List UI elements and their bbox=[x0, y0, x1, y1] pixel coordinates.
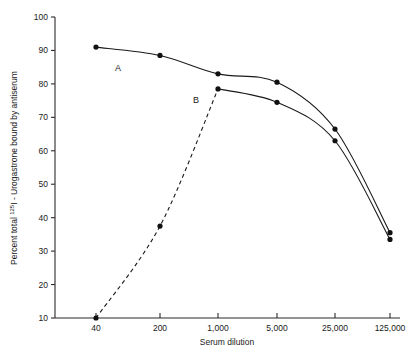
data-point-marker bbox=[215, 71, 220, 76]
x-tick-label: 125,000 bbox=[375, 323, 406, 333]
x-axis-ticks: 402001,0005,00025,000125,000 bbox=[91, 313, 405, 333]
y-tick-label: 60 bbox=[39, 146, 49, 156]
y-tick-label: 30 bbox=[39, 246, 49, 256]
series-a-line bbox=[96, 47, 390, 233]
x-axis-title: Serum dilution bbox=[200, 337, 255, 347]
y-tick-label: 20 bbox=[39, 280, 49, 290]
data-point-marker bbox=[332, 126, 337, 131]
y-axis-title: Percent total 125I - Urogastrone bound b… bbox=[9, 71, 19, 265]
x-tick-label: 25,000 bbox=[322, 323, 348, 333]
curve-label-a: A bbox=[115, 63, 121, 73]
series-b-solid-line bbox=[218, 89, 390, 240]
chart-figure: 102030405060708090100 402001,0005,00025,… bbox=[0, 0, 414, 358]
data-point-marker bbox=[332, 138, 337, 143]
data-point-marker bbox=[93, 315, 98, 320]
x-tick-label: 40 bbox=[91, 323, 101, 333]
data-point-marker bbox=[387, 230, 392, 235]
data-point-marker bbox=[215, 86, 220, 91]
y-tick-label: 10 bbox=[39, 313, 49, 323]
data-point-marker bbox=[157, 223, 162, 228]
data-point-marker bbox=[274, 100, 279, 105]
y-tick-label: 40 bbox=[39, 213, 49, 223]
series-b-dashed-line bbox=[96, 89, 218, 318]
data-point-marker bbox=[157, 53, 162, 58]
data-point-marker bbox=[93, 45, 98, 50]
y-axis-ticks: 102030405060708090100 bbox=[34, 12, 55, 323]
curve-label-b: B bbox=[193, 95, 199, 105]
y-tick-label: 90 bbox=[39, 45, 49, 55]
data-point-marker bbox=[387, 237, 392, 242]
series-a-markers bbox=[93, 45, 392, 236]
data-point-marker bbox=[274, 80, 279, 85]
y-tick-label: 70 bbox=[39, 112, 49, 122]
x-tick-label: 5,000 bbox=[266, 323, 288, 333]
y-tick-label: 100 bbox=[34, 12, 48, 22]
y-tick-label: 50 bbox=[39, 179, 49, 189]
series-b-markers bbox=[93, 86, 392, 320]
y-tick-label: 80 bbox=[39, 79, 49, 89]
chart-plot-area: 102030405060708090100 402001,0005,00025,… bbox=[0, 0, 414, 358]
x-tick-label: 200 bbox=[153, 323, 167, 333]
x-tick-label: 1,000 bbox=[207, 323, 229, 333]
